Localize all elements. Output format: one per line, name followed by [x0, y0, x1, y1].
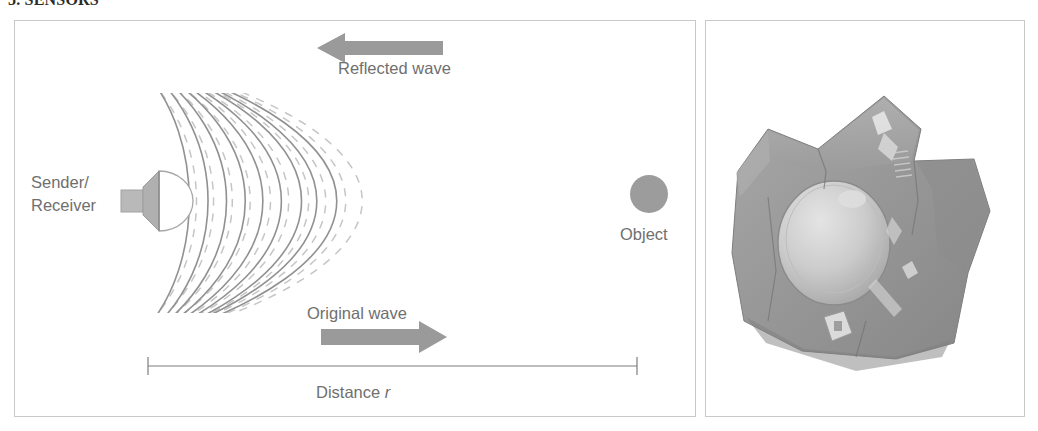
transducer-icon: [121, 171, 193, 231]
distance-dimension-line: [148, 357, 637, 375]
distance-label-prefix: Distance: [316, 383, 385, 401]
sender-label-line1: Sender/: [31, 173, 89, 191]
original-wave-arrow: [321, 321, 447, 353]
object-circle: [630, 175, 668, 213]
sensor-body: [732, 96, 990, 371]
distance-label: Distance r: [316, 383, 392, 401]
sender-label-line2: Receiver: [31, 196, 97, 214]
sensor-photo: [706, 21, 1024, 416]
distance-label-symbol: r: [385, 383, 392, 401]
ultrasonic-diagram: Reflected wave Sender/ Receiver Object O…: [15, 21, 695, 416]
photo-panel: [705, 20, 1025, 417]
photo-stage: [706, 21, 1024, 416]
reflected-wave-label: Reflected wave: [338, 59, 451, 77]
original-wave-label: Original wave: [307, 304, 407, 322]
section-heading: 5. SENSORS: [8, 0, 99, 9]
diagram-panel: Reflected wave Sender/ Receiver Object O…: [14, 20, 696, 417]
object-label: Object: [620, 225, 668, 243]
